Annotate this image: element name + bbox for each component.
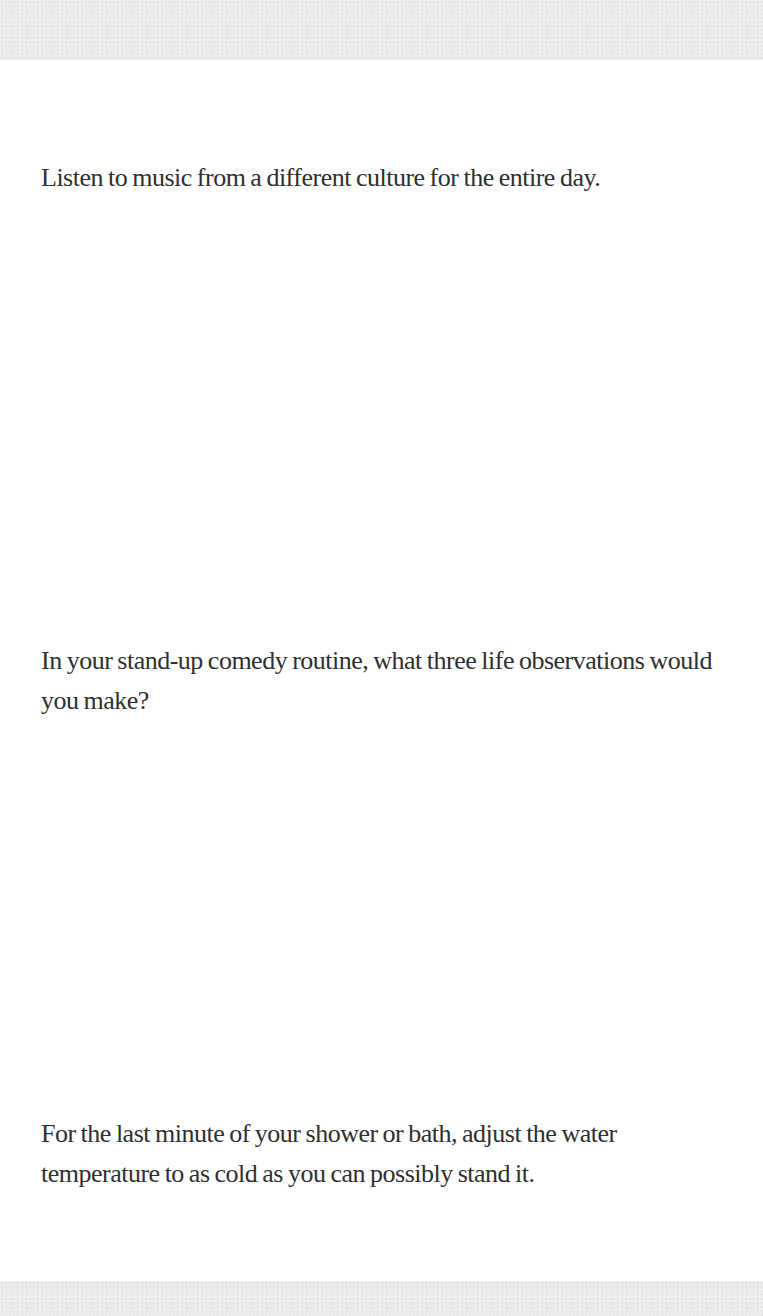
prompt-cold-shower: For the last minute of your shower or ba… xyxy=(41,1114,731,1194)
top-margin-band xyxy=(0,0,763,60)
bottom-margin-band xyxy=(0,1281,763,1316)
page: Listen to music from a different culture… xyxy=(0,60,763,1281)
prompt-music-culture: Listen to music from a different culture… xyxy=(41,158,731,198)
prompt-comedy-routine: In your stand-up comedy routine, what th… xyxy=(41,641,731,721)
